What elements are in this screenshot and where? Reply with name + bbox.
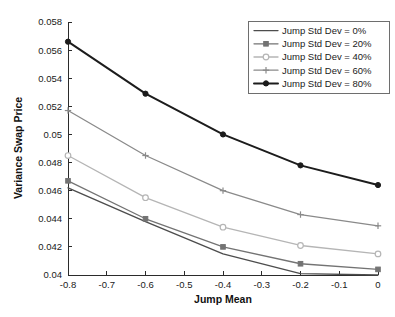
y-tick-label: 0.058 xyxy=(38,16,62,27)
y-tick-label: 0.042 xyxy=(38,241,62,252)
x-tick-label: 0 xyxy=(375,279,380,290)
y-tick-label: 0.052 xyxy=(38,101,62,112)
legend-label-2: Jump Std Dev = 40% xyxy=(282,51,372,62)
series-2-point-0-marker xyxy=(65,153,71,159)
y-tick-label: 0.046 xyxy=(38,185,62,196)
series-2-point-1-marker xyxy=(143,195,149,201)
chart-legend[interactable]: Jump Std Dev = 0%Jump Std Dev = 20%Jump … xyxy=(248,21,389,93)
x-tick-label: -0.6 xyxy=(137,279,153,290)
y-axis-title: Variance Swap Price xyxy=(12,97,24,199)
legend-label-4: Jump Std Dev = 80% xyxy=(282,78,372,89)
legend-label-0: Jump Std Dev = 0% xyxy=(282,25,367,36)
x-tick-label: -0.4 xyxy=(215,279,231,290)
series-1-point-2-marker xyxy=(221,245,226,250)
x-tick-label: -0.3 xyxy=(254,279,270,290)
series-4-point-4-marker xyxy=(375,182,380,187)
x-tick-label: -0.7 xyxy=(99,279,115,290)
legend-swatch-2-marker xyxy=(263,54,269,60)
x-tick-label: -0.1 xyxy=(331,279,347,290)
y-tick-label: 0.054 xyxy=(38,73,62,84)
variance-swap-price-chart: 0.040.0420.0440.0460.0480.050.0520.0540.… xyxy=(0,0,395,317)
series-1-point-0-marker xyxy=(66,179,71,184)
series-2-point-2-marker xyxy=(220,224,226,230)
series-2-point-4-marker xyxy=(375,251,381,257)
x-axis-title: Jump Mean xyxy=(194,293,252,305)
series-1-point-1-marker xyxy=(143,216,148,221)
legend-label-3: Jump Std Dev = 60% xyxy=(282,65,372,76)
legend-swatch-1-marker xyxy=(264,42,269,47)
y-tick-label: 0.05 xyxy=(44,129,63,140)
legend-label-1: Jump Std Dev = 20% xyxy=(282,38,372,49)
series-4-point-2-marker xyxy=(220,132,225,137)
y-tick-label: 0.044 xyxy=(38,213,62,224)
series-1-point-3-marker xyxy=(298,261,303,266)
series-2-point-3-marker xyxy=(298,243,304,249)
x-tick-label: -0.8 xyxy=(60,279,76,290)
x-tick-label: -0.2 xyxy=(292,279,308,290)
y-tick-label: 0.048 xyxy=(38,157,62,168)
series-4-point-3-marker xyxy=(298,163,303,168)
series-1-point-4-marker xyxy=(376,267,381,272)
y-tick-label: 0.056 xyxy=(38,45,62,56)
legend-swatch-4-marker xyxy=(263,81,268,86)
series-4-point-0-marker xyxy=(65,39,70,44)
figure-container: 0.040.0420.0440.0460.0480.050.0520.0540.… xyxy=(0,0,395,317)
x-tick-label: -0.5 xyxy=(176,279,192,290)
series-4-point-1-marker xyxy=(143,91,148,96)
